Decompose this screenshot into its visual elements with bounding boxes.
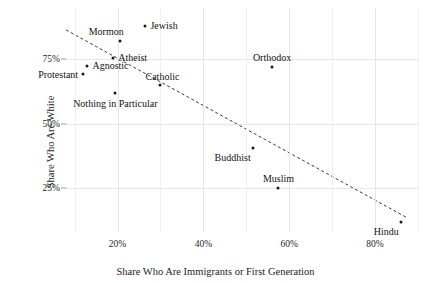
data-point[interactable] (399, 220, 402, 223)
data-point-label: Jewish (150, 20, 177, 31)
data-point[interactable] (159, 84, 162, 87)
data-point[interactable] (82, 72, 85, 75)
gridline-vertical (418, 8, 419, 232)
data-point-label: Agnostic (92, 59, 128, 70)
x-tick-label: 80% (366, 239, 383, 249)
gridline-horizontal (66, 124, 418, 125)
y-tick-label: 75% (43, 54, 60, 64)
y-tick-mark (61, 123, 66, 124)
gridline-vertical (332, 8, 333, 232)
data-point-label: Buddhist (215, 152, 251, 163)
gridline-vertical (375, 8, 376, 232)
data-point-label: Catholic (145, 71, 179, 82)
data-point-label: Nothing in Particular (73, 97, 157, 108)
x-tick-label: 60% (281, 239, 298, 249)
data-point[interactable] (271, 66, 274, 69)
gridline-vertical (203, 8, 204, 232)
plot-area: 25%50%75%20%40%60%80%JewishMormonAtheist… (66, 8, 418, 232)
data-point[interactable] (86, 64, 89, 67)
data-point[interactable] (118, 40, 121, 43)
gridline-vertical (246, 8, 247, 232)
data-point[interactable] (144, 25, 147, 28)
data-point[interactable] (114, 91, 117, 94)
data-point[interactable] (251, 147, 254, 150)
x-tick-label: 20% (109, 239, 126, 249)
gridline-vertical (160, 8, 161, 232)
y-tick-mark (61, 188, 66, 189)
gridline-vertical (289, 8, 290, 232)
y-axis-title: Share Who Are White (45, 95, 56, 188)
data-point-label: Muslim (263, 173, 294, 184)
data-point[interactable] (277, 187, 280, 190)
x-tick-label: 40% (195, 239, 212, 249)
scatter-chart: 25%50%75%20%40%60%80%JewishMormonAtheist… (0, 0, 431, 283)
gridline-vertical (75, 8, 76, 232)
data-point-label: Hindu (374, 225, 399, 236)
gridline-horizontal (66, 188, 418, 189)
x-axis-title: Share Who Are Immigrants or First Genera… (0, 266, 431, 277)
y-tick-mark (61, 59, 66, 60)
data-point-label: Orthodox (253, 52, 291, 63)
data-point-label: Mormon (89, 26, 124, 37)
data-point-label: Protestant (38, 68, 78, 79)
